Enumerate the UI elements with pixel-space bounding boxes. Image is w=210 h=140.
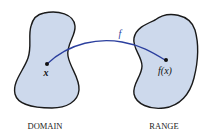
range-label: RANGE bbox=[149, 121, 178, 131]
domain-set-shape bbox=[15, 12, 80, 108]
range-point-label: f(x) bbox=[158, 65, 173, 77]
mapping-label: f bbox=[119, 28, 123, 39]
function-mapping-diagram: f x f(x) DOMAIN RANGE bbox=[0, 0, 210, 140]
domain-point bbox=[45, 62, 49, 66]
range-point bbox=[164, 58, 168, 62]
domain-point-label: x bbox=[43, 67, 49, 78]
domain-label: DOMAIN bbox=[28, 121, 63, 131]
